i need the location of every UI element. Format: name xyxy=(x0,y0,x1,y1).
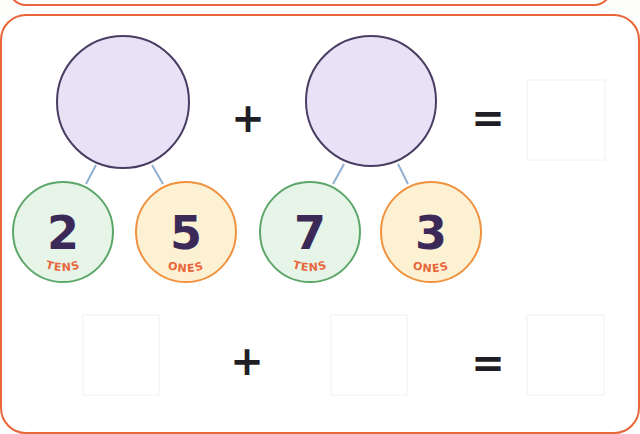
answer-box-1[interactable] xyxy=(527,80,605,160)
addend-box-1[interactable] xyxy=(83,315,159,395)
equation-row-2: + = xyxy=(83,315,604,395)
plus-sign-1: + xyxy=(231,95,265,141)
answer-box-2[interactable] xyxy=(527,315,604,395)
connector-tens-1 xyxy=(86,165,96,184)
tens-value-1: 2 xyxy=(47,206,79,260)
addend-box-2[interactable] xyxy=(331,315,407,395)
connector-ones-2 xyxy=(398,164,408,184)
number-bond-2: 7 TENS 3 ONES xyxy=(260,36,481,282)
connector-tens-2 xyxy=(333,164,344,184)
ones-value-1: 5 xyxy=(170,206,202,260)
equals-sign-1: = xyxy=(471,95,505,141)
whole-circle-1[interactable] xyxy=(57,36,189,168)
number-bond-1: 2 TENS 5 ONES xyxy=(13,36,236,282)
tens-value-2: 7 xyxy=(294,206,326,260)
whole-circle-2[interactable] xyxy=(306,36,436,166)
plus-sign-2: + xyxy=(230,338,264,384)
ones-value-2: 3 xyxy=(415,206,447,260)
equals-sign-2: = xyxy=(471,340,505,386)
connector-ones-1 xyxy=(152,165,163,184)
